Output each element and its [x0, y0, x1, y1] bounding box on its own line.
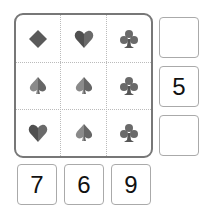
spade-icon — [74, 123, 94, 143]
heart-icon — [28, 123, 48, 143]
grid-cell-1-1[interactable] — [61, 63, 106, 109]
grid-cell-2-0[interactable] — [16, 110, 60, 156]
spade-icon — [74, 76, 94, 96]
club-icon — [119, 76, 139, 96]
card-suit-grid — [14, 13, 153, 158]
column-clue-2[interactable]: 9 — [111, 164, 151, 205]
grid-cell-0-1[interactable] — [61, 15, 106, 62]
grid-cell-1-0[interactable] — [16, 63, 60, 109]
grid-cell-0-2[interactable] — [107, 15, 151, 62]
row-clue-2[interactable] — [159, 115, 199, 156]
column-clue-1[interactable]: 6 — [64, 164, 104, 205]
grid-cell-2-2[interactable] — [107, 110, 151, 156]
column-clue-0[interactable]: 7 — [17, 164, 57, 205]
grid-cell-2-1[interactable] — [61, 110, 106, 156]
heart-icon — [74, 29, 94, 49]
club-icon — [119, 123, 139, 143]
grid-cell-1-2[interactable] — [107, 63, 151, 109]
row-clue-1[interactable]: 5 — [159, 66, 199, 107]
diamond-icon — [28, 29, 48, 49]
row-clue-0[interactable] — [159, 17, 199, 58]
grid-cell-0-0[interactable] — [16, 15, 60, 62]
club-icon — [119, 29, 139, 49]
spade-icon — [28, 76, 48, 96]
